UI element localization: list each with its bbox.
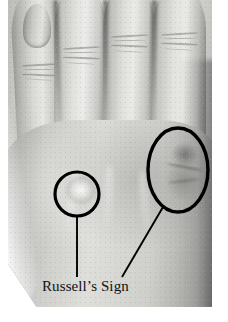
caption-russells-sign: Russell’s Sign [42, 278, 129, 295]
figure-russells-sign: Russell’s Sign [0, 0, 228, 322]
photo-film-grain [8, 0, 212, 307]
hand-photograph [8, 0, 212, 307]
